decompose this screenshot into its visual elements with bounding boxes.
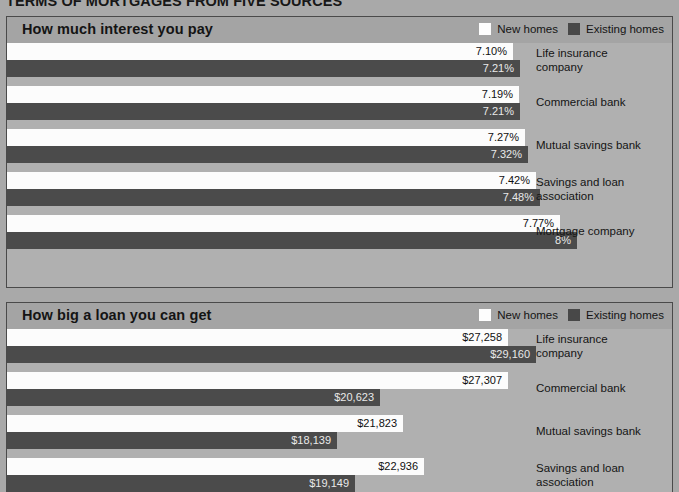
bar-value: 7.48%	[503, 192, 540, 203]
bar-new-homes: $21,823	[7, 415, 403, 432]
legend-swatch-new-homes-icon	[479, 23, 491, 35]
bar-value: 7.19%	[482, 89, 519, 100]
bar-value: $27,307	[462, 375, 508, 386]
group-spacer	[7, 163, 672, 172]
chart-title-loan: How big a loan you can get	[22, 307, 212, 323]
category-label: Mutual savings bank	[536, 139, 641, 153]
bar-new-homes: $22,936	[7, 458, 424, 475]
legend-label-existing-homes: Existing homes	[586, 309, 664, 321]
plot-area-loan: $27,258 $29,160 Life insurance company $…	[7, 329, 672, 492]
bar-group: 7.77% 8% Mortgage company	[7, 215, 672, 249]
category-label: Commercial bank	[536, 382, 625, 396]
legend-label-new-homes: New homes	[497, 23, 558, 35]
chart-panel-interest: How much interest you pay New homes Exis…	[6, 16, 673, 288]
category-label: Savings and loan association	[536, 176, 624, 203]
category-label: Commercial bank	[536, 96, 625, 110]
bar-new-homes: 7.77%	[7, 215, 560, 232]
chart-title-interest: How much interest you pay	[22, 21, 213, 37]
legend-swatch-existing-homes-icon	[568, 23, 580, 35]
group-spacer	[7, 120, 672, 129]
legend-item-existing-homes: Existing homes	[568, 309, 664, 321]
bar-value: 7.21%	[483, 106, 520, 117]
bar-value: $20,623	[334, 392, 380, 403]
bar-group: 7.27% 7.32% Mutual savings bank	[7, 129, 672, 163]
page-title: TERMS OF MORTGAGES FROM FIVE SOURCES	[6, 0, 342, 9]
panel-header: How much interest you pay New homes Exis…	[7, 17, 672, 43]
legend-item-existing-homes: Existing homes	[568, 23, 664, 35]
bar-group: 7.19% 7.21% Commercial bank	[7, 86, 672, 120]
bar-group: $22,936 $19,149 Savings and loan associa…	[7, 458, 672, 492]
bar-value: 7.27%	[488, 132, 525, 143]
bar-group: $27,258 $29,160 Life insurance company	[7, 329, 672, 363]
bar-value: $19,149	[309, 478, 355, 489]
legend-swatch-existing-homes-icon	[568, 309, 580, 321]
bar-existing-homes: 7.21%	[7, 103, 520, 120]
bar-existing-homes: $20,623	[7, 389, 380, 406]
bar-value: $18,139	[291, 435, 337, 446]
bar-existing-homes: 8%	[7, 232, 577, 249]
legend-label-new-homes: New homes	[497, 309, 558, 321]
plot-area-interest: 7.10% 7.21% Life insurance company 7.19%…	[7, 43, 672, 249]
bar-new-homes: $27,307	[7, 372, 508, 389]
bar-group: $27,307 $20,623 Commercial bank	[7, 372, 672, 406]
bar-value: $27,258	[462, 332, 508, 343]
chart-panel-loan: How big a loan you can get New homes Exi…	[6, 302, 673, 492]
bar-value: $29,160	[490, 349, 536, 360]
legend-item-new-homes: New homes	[479, 309, 558, 321]
legend-label-existing-homes: Existing homes	[586, 23, 664, 35]
bar-value: 7.32%	[491, 149, 528, 160]
bar-existing-homes: 7.21%	[7, 60, 520, 77]
group-spacer	[7, 449, 672, 458]
chart-page: TERMS OF MORTGAGES FROM FIVE SOURCES How…	[0, 0, 679, 492]
bar-value: $22,936	[378, 461, 424, 472]
category-label: Mutual savings bank	[536, 425, 641, 439]
category-label: Savings and loan association	[536, 462, 624, 489]
legend-interest: New homes Existing homes	[479, 23, 664, 35]
bar-value: $21,823	[357, 418, 403, 429]
bar-value: 7.21%	[483, 63, 520, 74]
bar-value: 7.10%	[476, 46, 513, 57]
panel-header: How big a loan you can get New homes Exi…	[7, 303, 672, 329]
bar-new-homes: 7.19%	[7, 86, 519, 103]
group-spacer	[7, 406, 672, 415]
group-spacer	[7, 363, 672, 372]
bar-new-homes: $27,258	[7, 329, 508, 346]
bar-value: 7.42%	[499, 175, 536, 186]
category-label: Mortgage company	[536, 225, 634, 239]
bar-group: 7.10% 7.21% Life insurance company	[7, 43, 672, 77]
bar-existing-homes: $19,149	[7, 475, 355, 492]
bar-new-homes: 7.10%	[7, 43, 513, 60]
group-spacer	[7, 77, 672, 86]
category-label: Life insurance company	[536, 333, 608, 360]
bar-existing-homes: 7.32%	[7, 146, 528, 163]
category-label: Life insurance company	[536, 47, 608, 74]
legend-item-new-homes: New homes	[479, 23, 558, 35]
bar-new-homes: 7.27%	[7, 129, 525, 146]
bar-existing-homes: 7.48%	[7, 189, 540, 206]
bar-existing-homes: $29,160	[7, 346, 536, 363]
group-spacer	[7, 206, 672, 215]
bar-group: 7.42% 7.48% Savings and loan association	[7, 172, 672, 206]
bar-group: $21,823 $18,139 Mutual savings bank	[7, 415, 672, 449]
bar-new-homes: 7.42%	[7, 172, 536, 189]
legend-swatch-new-homes-icon	[479, 309, 491, 321]
bar-existing-homes: $18,139	[7, 432, 337, 449]
legend-loan: New homes Existing homes	[479, 309, 664, 321]
